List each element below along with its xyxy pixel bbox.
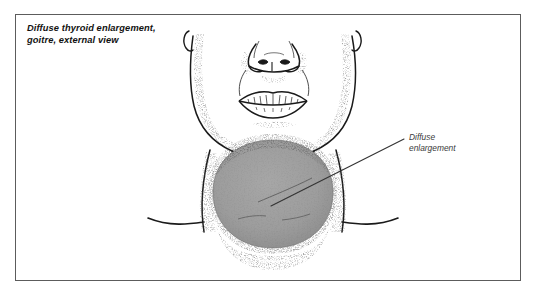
- mouth-group: [239, 92, 307, 118]
- nose-tip-highlight-path: [264, 53, 284, 55]
- callout-label-diffuse-enlargement: Diffuse enlargement: [409, 132, 519, 154]
- nasolabial-right-path: [302, 70, 309, 96]
- nostril-left-path: [258, 60, 268, 65]
- figure-root: Diffuse thyroid enlargement, goitre, ext…: [0, 0, 538, 299]
- left-clavicle-path: [148, 218, 204, 224]
- nasolabial-left-path: [239, 70, 246, 96]
- nostril-right-path: [280, 60, 290, 65]
- nose-group: [248, 41, 299, 72]
- lower-lip-hatching: [256, 107, 290, 112]
- goitre-mass-group: [209, 134, 337, 270]
- right-clavicle-path: [342, 218, 398, 224]
- chin-stipple-shading: [252, 122, 296, 128]
- figure-title: Diffuse thyroid enlargement, goitre, ext…: [27, 22, 237, 46]
